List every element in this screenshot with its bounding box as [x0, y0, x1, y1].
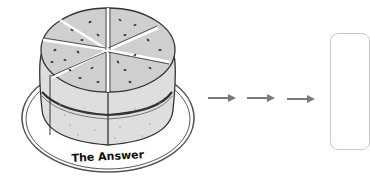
arrow-icon — [287, 95, 315, 103]
arrow-icon — [208, 94, 236, 102]
arrow-icon — [247, 94, 275, 102]
cake-top — [41, 8, 175, 92]
arrows — [208, 94, 315, 103]
cake-label: The Answer — [71, 148, 145, 165]
target-box — [330, 33, 370, 150]
